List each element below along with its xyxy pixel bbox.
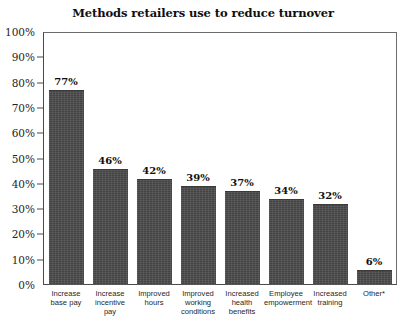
y-axis-tick-label: 30% [12, 203, 35, 215]
y-axis-tick-label: 20% [12, 228, 35, 240]
y-axis-tick-label: 60% [12, 127, 35, 139]
bar-slot: 37% [225, 32, 260, 285]
y-axis-tick-label: 50% [12, 153, 35, 165]
y-axis-tick-mark [37, 57, 43, 58]
x-axis-category-label: Improved working conditions [176, 289, 220, 317]
bar[interactable] [225, 191, 260, 285]
x-axis-category-label: Employee empowerment [264, 289, 308, 307]
bar[interactable] [49, 90, 84, 285]
bar[interactable] [357, 270, 392, 285]
y-axis-tick-label: 90% [12, 51, 35, 63]
bar-value-label: 6% [349, 256, 400, 267]
chart-title: Methods retailers use to reduce turnover [0, 6, 406, 20]
y-axis-tick-label: 100% [5, 26, 35, 38]
y-axis-tick-mark [37, 209, 43, 210]
y-axis-tick-label: 0% [18, 279, 35, 291]
y-axis: 0%10%20%30%40%50%60%70%80%90%100% [0, 32, 43, 285]
bar-value-label: 77% [41, 76, 92, 87]
bar[interactable] [181, 186, 216, 285]
bar-slot: 42% [137, 32, 172, 285]
bar[interactable] [313, 204, 348, 285]
y-axis-tick-mark [37, 234, 43, 235]
x-axis-category-label: Increase incentive pay [88, 289, 132, 317]
x-axis-category-label: Increase base pay [44, 289, 88, 307]
bar-slot: 39% [181, 32, 216, 285]
bar-slot: 32% [313, 32, 348, 285]
x-axis-category-label: Increased health benefits [220, 289, 264, 317]
y-axis-tick-label: 80% [12, 77, 35, 89]
y-axis-tick-mark [37, 158, 43, 159]
bars-layer: 77%46%42%39%37%34%32%6% [44, 32, 396, 285]
y-axis-tick-label: 10% [12, 254, 35, 266]
bar-slot: 46% [93, 32, 128, 285]
y-axis-tick-label: 70% [12, 102, 35, 114]
x-axis-category-label: Improved hours [132, 289, 176, 307]
bar-value-label: 32% [305, 190, 356, 201]
y-axis-tick-label: 40% [12, 178, 35, 190]
y-axis-tick-mark [37, 259, 43, 260]
bar[interactable] [137, 179, 172, 285]
x-axis: Increase base payIncrease incentive payI… [44, 289, 396, 329]
x-axis-category-label: Other* [352, 289, 396, 298]
bar[interactable] [269, 199, 304, 285]
y-axis-tick-mark [37, 133, 43, 134]
bar-slot: 77% [49, 32, 84, 285]
bar[interactable] [93, 169, 128, 285]
x-axis-category-label: Increased training [308, 289, 352, 307]
y-axis-tick-mark [37, 183, 43, 184]
bar-slot: 6% [357, 32, 392, 285]
bar-slot: 34% [269, 32, 304, 285]
y-axis-tick-mark [37, 107, 43, 108]
